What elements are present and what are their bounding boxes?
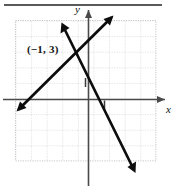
- y-axis-label: y: [75, 4, 80, 15]
- graph-canvas: [0, 0, 180, 189]
- x-axis-label: x: [166, 104, 171, 115]
- point-coordinate-label: (−1, 3): [27, 43, 59, 55]
- coordinate-plane-figure: (−1, 3) x y: [0, 0, 180, 189]
